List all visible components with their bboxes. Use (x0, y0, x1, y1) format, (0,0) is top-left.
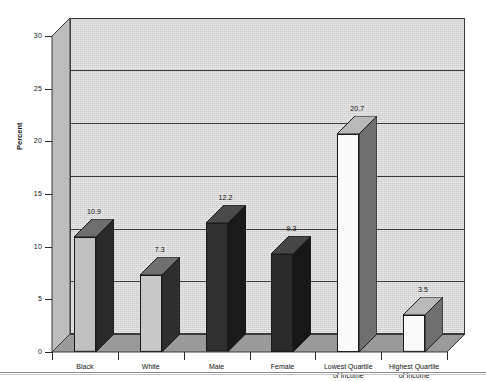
gridline-25 (70, 70, 465, 71)
ytick-label-5: 5 (20, 295, 42, 302)
bar-value-label: 9.3 (268, 225, 314, 232)
bar-value-label: 12.2 (203, 194, 249, 201)
bar-body (74, 219, 114, 352)
bar-male (206, 205, 246, 352)
ytick-mark-20 (45, 141, 52, 142)
bottom-rule (0, 372, 486, 373)
bar-body (140, 257, 180, 352)
xtick-mark-end (447, 352, 448, 360)
ytick-mark-0 (45, 352, 52, 353)
x-category-label-highest-quartile-of-income: Highest Quartileof Income (369, 362, 459, 380)
bar-value-label: 7.3 (137, 246, 183, 253)
xtick-mark (250, 352, 251, 360)
bar-black (74, 219, 114, 352)
ytick-mark-30 (45, 36, 52, 37)
xtick-mark (381, 352, 382, 360)
ytick-mark-5 (45, 299, 52, 300)
bar-body (271, 236, 311, 352)
y-axis-title: Percent (15, 122, 24, 150)
x-category-line: Highest Quartile (369, 362, 459, 371)
bar-body (403, 297, 443, 352)
bar-value-label: 10.9 (71, 208, 117, 215)
gridline-15 (70, 176, 465, 177)
bar-highest-quartile-of-income (403, 297, 443, 352)
bar-white (140, 257, 180, 352)
ytick-label-0: 0 (20, 348, 42, 355)
gridline-30 (70, 18, 465, 19)
ytick-mark-15 (45, 194, 52, 195)
bar-value-label: 3.5 (400, 286, 446, 293)
gridline-5 (70, 281, 465, 282)
ytick-label-25: 25 (20, 85, 42, 92)
ytick-label-15: 15 (20, 190, 42, 197)
bar-value-label: 20.7 (334, 105, 380, 112)
xtick-mark (315, 352, 316, 360)
ytick-label-30: 30 (20, 32, 42, 39)
bar-body (206, 205, 246, 352)
xtick-mark (184, 352, 185, 360)
bar-lowest-quartile-of-income (337, 116, 377, 352)
xtick-mark (118, 352, 119, 360)
ytick-mark-25 (45, 89, 52, 90)
bottom-rule-secondary (0, 374, 486, 375)
bar-female (271, 236, 311, 352)
xtick-mark (52, 352, 53, 360)
ytick-mark-10 (45, 247, 52, 248)
chart-3d-column: 30 25 20 15 10 5 0 Percent 10.97.312.29.… (0, 0, 486, 381)
bar-body (337, 116, 377, 352)
ytick-label-10: 10 (20, 243, 42, 250)
gridline-20 (70, 123, 465, 124)
